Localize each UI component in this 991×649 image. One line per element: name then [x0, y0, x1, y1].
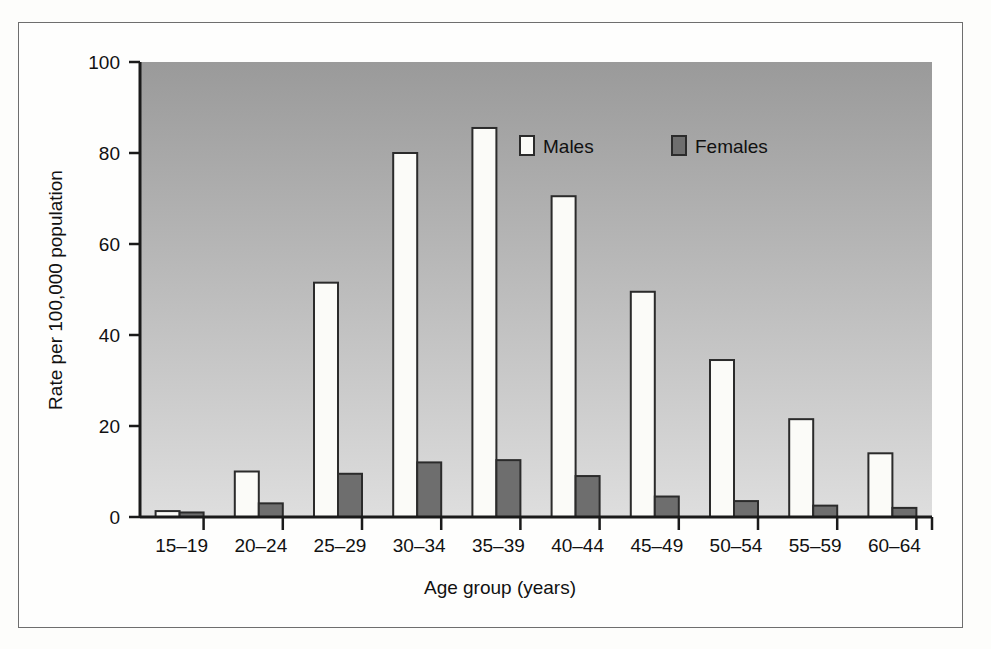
bar-females-2 — [338, 474, 362, 517]
bar-males-4 — [472, 128, 496, 517]
bar-females-7 — [734, 501, 758, 517]
bar-males-1 — [235, 472, 259, 518]
bar-males-2 — [314, 283, 338, 517]
y-tick-label: 100 — [88, 52, 120, 73]
x-tick-label: 60–64 — [868, 535, 921, 556]
y-axis-ticks — [129, 62, 140, 517]
y-tick-label: 80 — [99, 143, 120, 164]
x-tick-label: 30–34 — [393, 535, 446, 556]
x-tick-label: 45–49 — [630, 535, 683, 556]
x-tick-label: 20–24 — [234, 535, 287, 556]
y-tick-label: 20 — [99, 416, 120, 437]
y-tick-label: 0 — [109, 507, 120, 528]
x-tick-label: 50–54 — [710, 535, 763, 556]
y-axis-tick-labels: 020406080100 — [88, 52, 120, 528]
bar-females-5 — [576, 476, 600, 517]
y-tick-label: 60 — [99, 234, 120, 255]
bar-males-9 — [868, 453, 892, 517]
bar-females-3 — [417, 462, 441, 517]
x-tick-label: 40–44 — [551, 535, 604, 556]
x-axis-ticks — [204, 517, 932, 530]
legend-swatch-males — [520, 136, 534, 155]
bar-females-8 — [813, 506, 837, 517]
x-tick-label: 55–59 — [789, 535, 842, 556]
bar-males-7 — [710, 360, 734, 517]
figure-container: 020406080100 15–1920–2425–2930–3435–3940… — [0, 0, 991, 649]
bar-females-1 — [259, 503, 283, 517]
legend-swatch-females — [672, 136, 686, 155]
bar-males-3 — [393, 153, 417, 517]
y-axis-title: Rate per 100,000 population — [45, 170, 66, 410]
x-tick-label: 15–19 — [155, 535, 208, 556]
x-axis-tick-labels: 15–1920–2425–2930–3435–3940–4445–4950–54… — [155, 535, 921, 556]
bar-females-6 — [655, 497, 679, 517]
bar-males-5 — [552, 196, 576, 517]
x-tick-label: 35–39 — [472, 535, 525, 556]
x-tick-label: 25–29 — [314, 535, 367, 556]
y-tick-label: 40 — [99, 325, 120, 346]
legend-label-females: Females — [695, 136, 768, 157]
legend-label-males: Males — [543, 136, 594, 157]
x-axis-title: Age group (years) — [424, 577, 576, 598]
bar-chart: 020406080100 15–1920–2425–2930–3435–3940… — [0, 0, 991, 649]
bar-males-6 — [631, 292, 655, 517]
bar-males-8 — [789, 419, 813, 517]
bar-females-4 — [496, 460, 520, 517]
